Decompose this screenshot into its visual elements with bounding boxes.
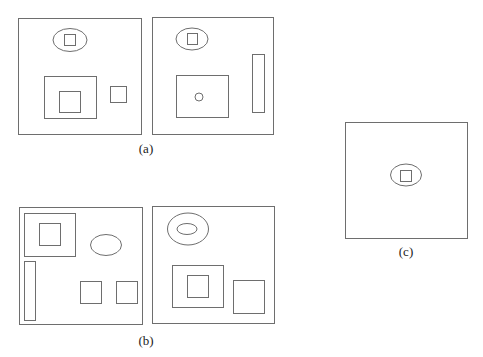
panel-b-left: [20, 208, 143, 325]
ellipse-shape: [391, 164, 422, 186]
small-square-right-shape: [111, 87, 127, 103]
square-2-shape: [117, 282, 138, 304]
ellipse-shape: [176, 28, 208, 50]
square-1-shape: [81, 282, 102, 304]
panel-a-right: [153, 18, 274, 135]
top-left-rect-shape: [25, 214, 76, 257]
small-circle-shape: [195, 93, 203, 101]
square-in-ellipse-shape: [401, 171, 412, 182]
inner-ellipse-shape: [177, 224, 197, 235]
tall-rect-shape: [25, 262, 36, 321]
ellipse-shape: [53, 29, 87, 52]
panel-b-right: [153, 207, 275, 324]
tall-rect-shape: [253, 55, 265, 113]
square-in-ellipse-shape: [188, 34, 198, 45]
square-in-ellipse-shape: [65, 35, 76, 46]
inner-square-shape: [60, 92, 81, 113]
panel-frame: [346, 123, 468, 239]
caption-b: (b): [138, 333, 153, 349]
panel-frame: [20, 208, 143, 325]
ellipse-shape: [91, 235, 122, 256]
panel-c: [346, 123, 468, 239]
figure-canvas: [0, 0, 483, 357]
right-square-shape: [234, 281, 265, 314]
inner-square-shape: [40, 224, 61, 246]
inner-square-shape: [188, 276, 209, 298]
outer-ellipse-shape: [168, 213, 209, 245]
panel-a-left: [19, 19, 142, 135]
caption-c: (c): [399, 244, 413, 260]
caption-a: (a): [139, 141, 153, 157]
large-rect-shape: [173, 266, 224, 308]
